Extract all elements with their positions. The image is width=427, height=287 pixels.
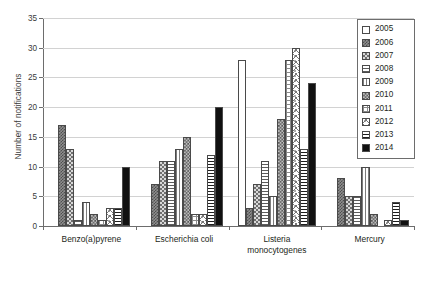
legend-item-2007[interactable]: 2007 [362,49,411,62]
legend-label: 2005 [375,25,393,33]
y-tick-label: 20 [28,103,37,112]
y-tick-mark [39,77,43,78]
legend-swatch-2008 [362,65,370,73]
y-tick-label: 15 [28,132,37,141]
bar-benzo-a-pyrene-2013[interactable] [114,208,122,226]
y-axis-label: Number of notifications [14,27,23,207]
legend-item-2010[interactable]: 2010 [362,89,411,102]
bar-mercury-2013[interactable] [392,202,400,226]
bar-listeria-monocytogenes-2005[interactable] [238,60,246,226]
legend-item-2008[interactable]: 2008 [362,63,411,76]
legend-item-2011[interactable]: 2011 [362,102,411,115]
bar-group-bars [52,18,130,226]
chart-legend: 2005200620072008200920102011201220132014 [357,19,415,159]
bar-benzo-a-pyrene-2007[interactable] [66,149,74,226]
bar-listeria-monocytogenes-2009[interactable] [269,196,277,226]
bar-group: Benzo(a)pyrene [52,18,130,226]
bar-benzo-a-pyrene-2009[interactable] [82,202,90,226]
y-tick-label: 25 [28,73,37,82]
legend-label: 2006 [375,39,393,47]
bar-escherichia-coli-2013[interactable] [207,155,215,226]
chart-figure: Number of notifications 05101520253035 B… [0,0,427,287]
bar-mercury-2006[interactable] [337,178,345,226]
x-tick-mark [43,226,44,230]
bar-escherichia-coli-2014[interactable] [215,107,223,226]
bar-benzo-a-pyrene-2014[interactable] [122,167,130,226]
x-axis-group-label: Benzo(a)pyrene [62,234,122,245]
legend-swatch-2010 [362,92,370,100]
legend-item-2006[interactable]: 2006 [362,36,411,49]
x-tick-mark [321,226,322,230]
bar-mercury-2010[interactable] [370,214,378,226]
bar-mercury-2008[interactable] [353,196,361,226]
legend-swatch-2006 [362,39,370,47]
legend-swatch-2013 [362,131,370,139]
y-tick-label: 10 [28,162,37,171]
legend-item-2005[interactable]: 2005 [362,23,411,36]
legend-item-2012[interactable]: 2012 [362,115,411,128]
x-tick-mark [414,226,415,230]
y-tick-mark [39,48,43,49]
bar-escherichia-coli-2006[interactable] [151,184,159,226]
y-tick-label: 35 [28,14,37,23]
bar-listeria-monocytogenes-2013[interactable] [300,149,308,226]
y-tick-label: 30 [28,43,37,52]
bar-listeria-monocytogenes-2014[interactable] [308,83,316,226]
y-tick-mark [39,196,43,197]
legend-label: 2009 [375,78,393,86]
y-tick-label: 5 [32,192,37,201]
bar-mercury-2007[interactable] [345,196,353,226]
bar-listeria-monocytogenes-2012[interactable] [292,48,300,226]
legend-swatch-2011 [362,105,370,113]
legend-label: 2014 [375,144,393,152]
x-tick-mark [229,226,230,230]
y-tick-mark [39,107,43,108]
bar-group: Listeriamonocytogenes [238,18,316,226]
legend-label: 2011 [375,105,393,113]
x-axis-group-label: Mercury [355,234,385,245]
legend-swatch-2005 [362,26,370,34]
x-axis-group-label: Escherichia coli [155,234,213,245]
y-tick-mark [39,167,43,168]
bar-mercury-2012[interactable] [384,220,392,226]
bar-mercury-2014[interactable] [400,220,408,226]
legend-label: 2012 [375,118,393,126]
legend-swatch-2009 [362,78,370,86]
bar-escherichia-coli-2012[interactable] [199,214,207,226]
y-tick-label: 0 [32,222,37,231]
bar-escherichia-coli-2007[interactable] [159,161,167,226]
bar-benzo-a-pyrene-2006[interactable] [58,125,66,226]
figure-caption [4,277,424,287]
legend-label: 2008 [375,65,393,73]
legend-label: 2010 [375,91,393,99]
bar-group: Escherichia coli [145,18,223,226]
bar-benzo-a-pyrene-2011[interactable] [98,220,106,226]
legend-swatch-2007 [362,52,370,60]
bar-listeria-monocytogenes-2007[interactable] [253,184,261,226]
bar-benzo-a-pyrene-2008[interactable] [74,220,82,226]
bar-escherichia-coli-2011[interactable] [191,214,199,226]
x-tick-mark [136,226,137,230]
legend-item-2009[interactable]: 2009 [362,76,411,89]
y-tick-mark [39,137,43,138]
bar-escherichia-coli-2009[interactable] [175,149,183,226]
bar-benzo-a-pyrene-2010[interactable] [90,214,98,226]
bar-mercury-2009[interactable] [361,167,369,226]
bar-listeria-monocytogenes-2011[interactable] [285,60,293,226]
bar-escherichia-coli-2008[interactable] [167,161,175,226]
y-tick-mark [39,18,43,19]
legend-item-2013[interactable]: 2013 [362,129,411,142]
bar-benzo-a-pyrene-2012[interactable] [106,208,114,226]
legend-swatch-2014 [362,144,370,152]
bar-listeria-monocytogenes-2008[interactable] [261,161,269,226]
bar-listeria-monocytogenes-2010[interactable] [277,119,285,226]
bar-escherichia-coli-2010[interactable] [183,137,191,226]
legend-swatch-2012 [362,118,370,126]
legend-label: 2007 [375,52,393,60]
bar-group-bars [145,18,223,226]
legend-item-2014[interactable]: 2014 [362,142,411,155]
bar-group-bars [238,18,316,226]
legend-label: 2013 [375,131,393,139]
bar-listeria-monocytogenes-2006[interactable] [246,208,254,226]
x-axis-group-label: Listeriamonocytogenes [232,234,322,256]
